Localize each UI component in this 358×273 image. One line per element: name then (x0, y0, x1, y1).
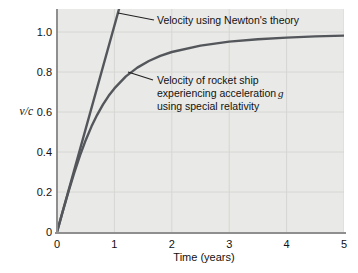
figure-canvas: 00.20.40.60.81.0 012345 v/c Time (years)… (0, 0, 358, 273)
x-tick-label: 1 (99, 238, 129, 251)
data-series (57, 9, 344, 232)
x-tick-label: 0 (42, 238, 72, 251)
y-tick-label: 0.8 (0, 66, 52, 79)
annotation-relativity-line1: Velocity of rocket ship (157, 74, 284, 87)
annotation-relativity: Velocity of rocket ship experiencing acc… (157, 74, 284, 113)
y-tick-label: 0.4 (0, 146, 52, 159)
x-tick-label: 3 (214, 238, 244, 251)
x-tick-label: 2 (157, 238, 187, 251)
x-tick-label: 5 (329, 238, 358, 251)
plot-area (57, 9, 344, 232)
acceleration-g-symbol: g (278, 87, 284, 99)
y-axis-title: v/c (0, 105, 33, 117)
annotation-newton-text: Velocity using Newton's theory (157, 14, 299, 26)
y-axis-line (56, 9, 58, 234)
annotation-newton: Velocity using Newton's theory (157, 14, 299, 27)
x-axis-line (55, 232, 346, 234)
y-tick-label: 1.0 (0, 26, 52, 39)
annotation-relativity-line2: experiencing accelerationg (157, 87, 284, 100)
annotation-relativity-line3: using special relativity (157, 100, 284, 113)
x-axis-title: Time (years) (144, 251, 264, 263)
relativity-curve (57, 36, 344, 232)
x-tick-label: 4 (272, 238, 302, 251)
y-tick-label: 0.2 (0, 186, 52, 199)
